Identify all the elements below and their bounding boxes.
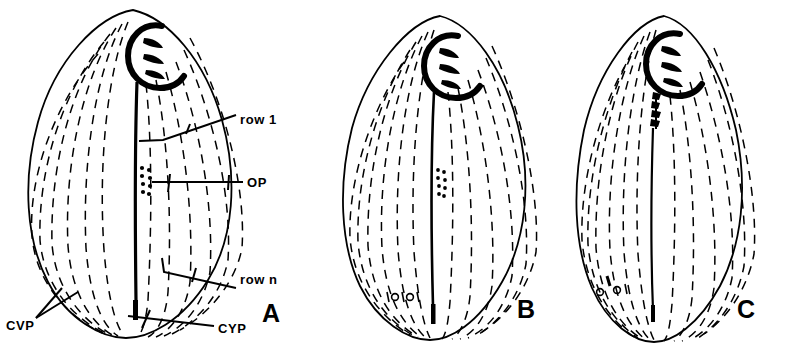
label-cvp: CVP: [6, 318, 35, 333]
panel-letter-a: A: [262, 299, 280, 327]
oral-apparatus-b: [424, 35, 480, 98]
ciliate-morphogenesis-diagram: A: [0, 0, 795, 364]
label-op: OP: [247, 175, 267, 190]
figure-canvas: A: [0, 0, 795, 364]
cytoproct-mark-b: [431, 304, 436, 324]
oral-apparatus-c: [646, 33, 702, 96]
panel-a: A: [28, 10, 280, 338]
cell-outline-b: [343, 16, 525, 340]
panel-letter-c: C: [737, 295, 755, 323]
panel-c: C: [576, 16, 755, 342]
oral-primordium-streak-c: [650, 92, 661, 129]
cytoproct-mark-c: [651, 305, 655, 322]
label-row1: row 1: [240, 112, 277, 127]
panel-b: B: [343, 16, 537, 340]
meridian-row1-a: [135, 82, 137, 318]
cell-outline-c: [576, 16, 742, 342]
meridian-row1-c: [652, 128, 654, 322]
label-rown: row n: [240, 272, 278, 287]
meridian-row1-b: [432, 92, 434, 322]
ciliary-rows-left-a: [32, 22, 128, 336]
oral-primordium-b: [436, 168, 447, 198]
panel-letter-b: B: [517, 295, 535, 323]
leader-op: [152, 174, 243, 192]
ciliary-rows-right-a: [138, 38, 243, 337]
label-cyp: CYP: [218, 321, 247, 336]
